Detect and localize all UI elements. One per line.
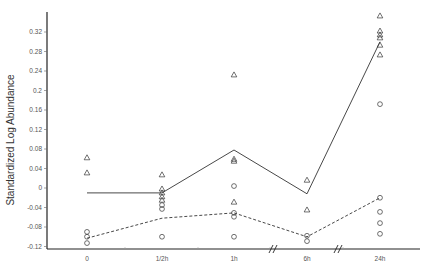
circle-marker — [85, 229, 90, 234]
triangle-marker — [84, 155, 90, 160]
x-tick-label: 24h — [375, 255, 386, 262]
y-axis-ticks: 0.320.280.240.20.160.120.080.040-0.04-0.… — [27, 28, 47, 250]
svg-text:Standardized Log Abundance: Standardized Log Abundance — [5, 74, 16, 206]
y-tick-label: 0.28 — [29, 48, 42, 55]
y-tick-label: 0.24 — [29, 67, 42, 74]
circle-marker — [378, 221, 383, 226]
circle-marker — [378, 102, 383, 107]
y-axis-title: Standardized Log Abundance — [5, 74, 16, 206]
series-lines — [87, 42, 380, 238]
y-tick-label: 0 — [38, 184, 42, 191]
y-tick-label: -0.12 — [27, 243, 42, 250]
triangle-marker — [231, 158, 237, 163]
y-tick-label: -0.08 — [27, 223, 42, 230]
circle-marker — [232, 184, 237, 189]
x-tick-label: 1h — [230, 255, 238, 262]
x-tick-label: 0 — [85, 255, 89, 262]
triangle-marker — [159, 172, 165, 177]
triangle-marker — [231, 199, 237, 204]
x-tick-label: 6h — [303, 255, 311, 262]
triangle-marker — [377, 13, 383, 18]
circle-marker — [305, 239, 310, 244]
y-tick-label: 0.16 — [29, 106, 42, 113]
x-axis-ticks: 01/2h1h6h24h — [85, 245, 386, 262]
triangle-marker — [84, 170, 90, 175]
circle-marker — [85, 241, 90, 246]
triangle-marker — [377, 52, 383, 57]
axes — [47, 12, 420, 249]
y-tick-label: 0.32 — [29, 28, 42, 35]
circle-marker — [378, 231, 383, 236]
triangle-mean-line — [87, 42, 380, 194]
triangle-marker — [304, 177, 310, 182]
circle-marker — [232, 234, 237, 239]
circle-marker — [378, 209, 383, 214]
y-tick-label: 0.08 — [29, 145, 42, 152]
circle-marker — [305, 233, 310, 238]
y-tick-label: -0.04 — [27, 204, 42, 211]
circle-marker — [85, 234, 90, 239]
y-tick-label: 0.2 — [33, 87, 42, 94]
chart-canvas: Standardized Log Abundance 0.320.280.240… — [0, 0, 430, 272]
circle-marker — [160, 234, 165, 239]
y-tick-label: 0.04 — [29, 165, 42, 172]
circle-marker — [378, 195, 383, 200]
triangle-marker — [304, 207, 310, 212]
y-tick-label: 0.12 — [29, 126, 42, 133]
triangle-marker — [231, 72, 237, 77]
x-tick-label: 1/2h — [156, 255, 169, 262]
